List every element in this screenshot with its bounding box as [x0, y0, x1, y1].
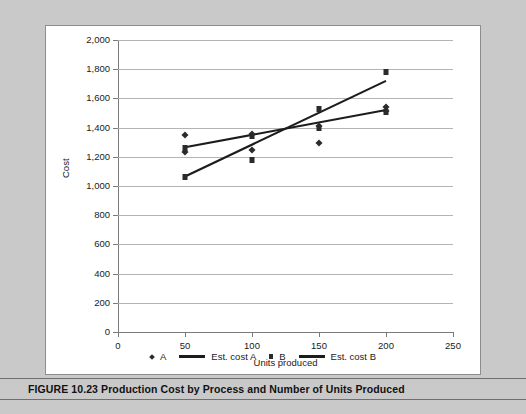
data-point-b — [183, 174, 188, 180]
caption-rule-bottom — [0, 399, 526, 400]
fit-line-est-cost-b — [185, 81, 386, 177]
figure-panel: Cost Units produced 02004006008001,0001,… — [45, 25, 481, 375]
legend-entry-est-cost-b[interactable]: Est. cost B — [299, 351, 376, 362]
y-tick-label-1000: 1,000 — [86, 181, 110, 191]
data-point-b — [183, 145, 188, 151]
data-point-b — [384, 109, 389, 115]
line-swatch-icon — [299, 355, 325, 357]
x-tick-label-200: 200 — [378, 341, 394, 351]
legend-entry-a[interactable]: A — [150, 351, 166, 362]
gridline-0 — [118, 332, 453, 333]
y-tick-label-400: 400 — [94, 269, 110, 279]
figure-caption-text: FIGURE 10.23 Production Cost by Process … — [0, 379, 526, 399]
data-point-b — [384, 69, 389, 75]
legend-entry-b[interactable]: B — [269, 351, 285, 362]
diamond-marker-icon — [149, 354, 155, 360]
y-tick-label-800: 800 — [94, 210, 110, 220]
data-point-b — [317, 125, 322, 131]
x-tick-250 — [453, 332, 454, 337]
x-tick-200 — [386, 332, 387, 337]
y-axis-title: Cost — [60, 158, 71, 178]
y-tick-label-2000: 2,000 — [86, 35, 110, 45]
figure-caption-block: FIGURE 10.23 Production Cost by Process … — [0, 378, 526, 400]
x-tick-label-150: 150 — [311, 341, 327, 351]
x-tick-150 — [319, 332, 320, 337]
x-tick-0 — [118, 332, 119, 337]
legend-label: Est. cost A — [211, 351, 256, 362]
x-tick-50 — [185, 332, 186, 337]
x-tick-label-100: 100 — [244, 341, 260, 351]
regression-lines — [118, 40, 453, 332]
y-tick-label-0: 0 — [105, 327, 110, 337]
x-tick-100 — [252, 332, 253, 337]
plot-area: 02004006008001,0001,2001,4001,6001,8002,… — [118, 40, 453, 332]
line-swatch-icon — [179, 355, 205, 357]
legend-label: B — [279, 351, 285, 362]
legend-entry-est-cost-a[interactable]: Est. cost A — [179, 351, 256, 362]
y-tick-label-200: 200 — [94, 298, 110, 308]
y-tick-label-1400: 1,400 — [86, 123, 110, 133]
x-tick-label-0: 0 — [115, 341, 120, 351]
square-marker-icon — [269, 354, 273, 359]
y-tick-label-1200: 1,200 — [86, 152, 110, 162]
data-point-b — [250, 133, 255, 139]
chart-legend: AEst. cost ABEst. cost B — [46, 351, 480, 362]
x-tick-label-50: 50 — [180, 341, 191, 351]
y-tick-label-1800: 1,800 — [86, 64, 110, 74]
x-tick-label-250: 250 — [445, 341, 461, 351]
data-point-b — [250, 157, 255, 163]
legend-label: Est. cost B — [331, 351, 376, 362]
data-point-b — [317, 106, 322, 112]
legend-label: A — [160, 351, 166, 362]
y-tick-label-600: 600 — [94, 240, 110, 250]
y-tick-label-1600: 1,600 — [86, 94, 110, 104]
